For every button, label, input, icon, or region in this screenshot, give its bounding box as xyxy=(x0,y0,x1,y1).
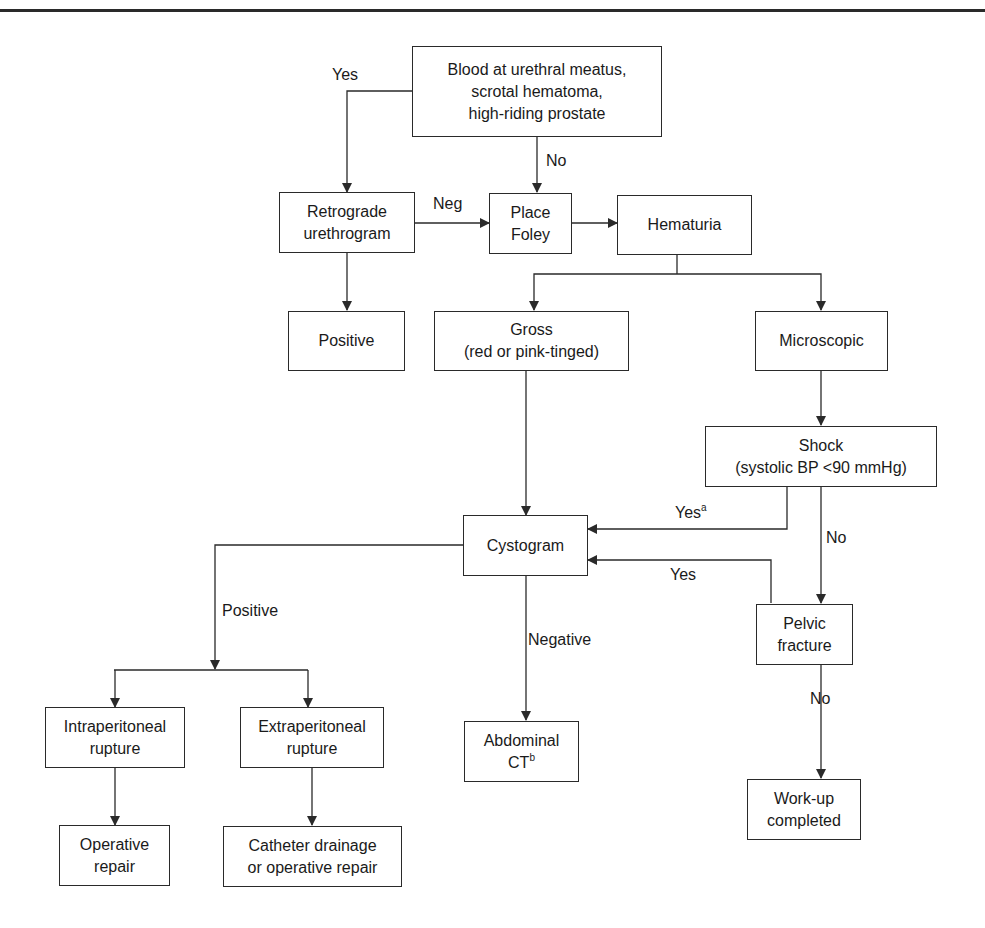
node-text: Intraperitoneal rupture xyxy=(64,716,166,760)
node-hematuria: Hematuria xyxy=(617,195,752,255)
node-extraperitoneal-rupture: Extraperitoneal rupture xyxy=(240,707,384,768)
edge-label-no-pelvic: No xyxy=(810,690,830,708)
node-text: Pelvic fracture xyxy=(777,613,831,657)
edge-label-neg: Neg xyxy=(433,195,462,213)
footnote-b: b xyxy=(529,752,535,763)
node-text: Extraperitoneal rupture xyxy=(258,716,366,760)
node-positive-urethrogram: Positive xyxy=(288,311,405,371)
node-text: Microscopic xyxy=(779,330,863,352)
node-shock: Shock (systolic BP <90 mmHg) xyxy=(705,426,937,487)
node-text: Cystogram xyxy=(487,535,564,557)
edge-label-no-top: No xyxy=(546,152,566,170)
edge-label-yes-shock: Yesa xyxy=(675,504,707,522)
node-retrograde-urethrogram: Retrograde urethrogram xyxy=(279,192,415,253)
edge-label-negative: Negative xyxy=(528,631,591,649)
node-text: Catheter drainage or operative repair xyxy=(248,835,378,879)
node-text: Hematuria xyxy=(648,214,722,236)
node-place-foley: Place Foley xyxy=(489,193,572,254)
node-text: Abdominal CT xyxy=(484,732,560,771)
node-workup-completed: Work-up completed xyxy=(747,779,861,840)
node-blood-at-urethral-meatus: Blood at urethral meatus, scrotal hemato… xyxy=(412,46,662,137)
node-text: Place Foley xyxy=(510,202,550,246)
edge-label-text: Yes xyxy=(675,504,701,521)
node-gross-hematuria: Gross (red or pink-tinged) xyxy=(434,311,629,371)
node-text: Gross (red or pink-tinged) xyxy=(464,319,599,363)
node-operative-repair: Operative repair xyxy=(59,825,170,886)
node-text: Operative repair xyxy=(80,834,149,878)
node-microscopic-hematuria: Microscopic xyxy=(755,311,888,371)
edge-label-positive: Positive xyxy=(222,602,278,620)
edge-label-no-shock: No xyxy=(826,529,846,547)
node-text: Retrograde urethrogram xyxy=(303,201,390,245)
edge-label-yes-top: Yes xyxy=(332,66,358,84)
node-catheter-drainage: Catheter drainage or operative repair xyxy=(223,826,402,887)
node-text: Positive xyxy=(318,330,374,352)
node-intraperitoneal-rupture: Intraperitoneal rupture xyxy=(45,707,185,768)
node-text: Shock (systolic BP <90 mmHg) xyxy=(735,435,907,479)
edge-label-yes-pelvic: Yes xyxy=(670,566,696,584)
node-abdominal-ct: Abdominal CTb xyxy=(464,721,579,782)
node-text: Work-up completed xyxy=(767,788,841,832)
footnote-a: a xyxy=(701,502,707,513)
node-cystogram: Cystogram xyxy=(463,515,588,576)
node-pelvic-fracture: Pelvic fracture xyxy=(756,604,853,665)
node-text: Blood at urethral meatus, scrotal hemato… xyxy=(448,59,627,125)
